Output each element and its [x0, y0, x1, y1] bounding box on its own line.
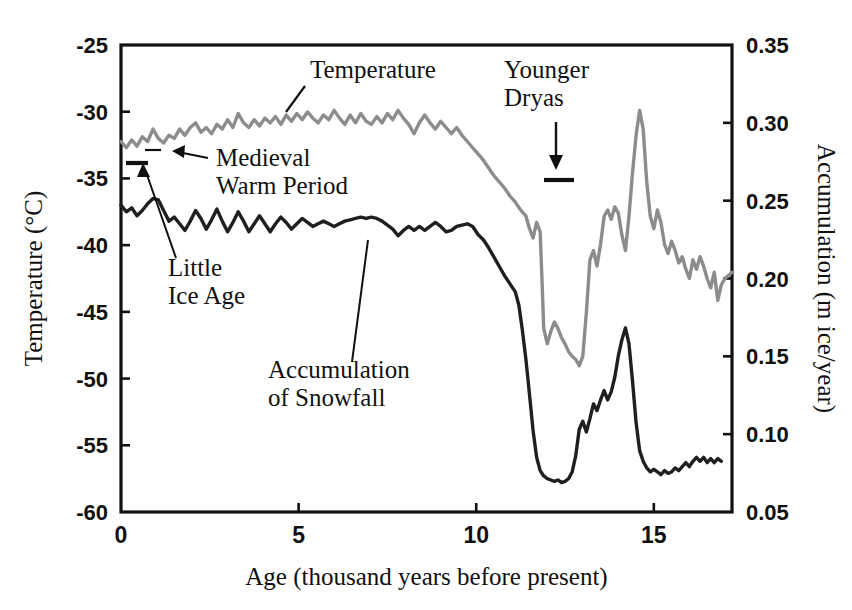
y-left-tick-label: -55 — [76, 433, 108, 458]
y-right-tick-label: 0.20 — [746, 267, 789, 292]
little-ice-age-label: Little — [168, 254, 222, 281]
y-right-tick-label: 0.05 — [746, 500, 789, 525]
y-right-tick-label: 0.30 — [746, 111, 789, 136]
x-tick-label: 10 — [463, 522, 489, 548]
y-right-tick-label: 0.35 — [746, 33, 789, 58]
medieval-warm-period-label: Medieval — [216, 144, 310, 171]
temperature-curve — [121, 110, 732, 365]
y-left-tick-label: -40 — [76, 233, 108, 258]
y-left-tick-label: -60 — [76, 500, 108, 525]
y-right-tick-label: 0.10 — [746, 422, 789, 447]
y-left-tick-label: -50 — [76, 367, 108, 392]
y-left-tick-label: -25 — [76, 33, 108, 58]
x-tick-label: 5 — [292, 522, 305, 548]
y-left-tick-label: -45 — [76, 300, 108, 325]
younger-dryas-arrow-head — [549, 155, 563, 170]
y-right-axis-title: Accumulation (m ice/year) — [812, 144, 840, 413]
temperature-annotation-label: Temperature — [310, 56, 436, 83]
younger-dryas-label: Younger — [504, 56, 590, 83]
accumulation-annotation-label: Accumulation — [268, 356, 410, 383]
accumulation-annotation-label-2: of Snowfall — [268, 384, 385, 411]
y-right-tick-label: 0.25 — [746, 189, 789, 214]
ice-core-chart: 051015-25-30-35-40-45-50-55-600.350.300.… — [0, 0, 852, 610]
chart-figure: 051015-25-30-35-40-45-50-55-600.350.300.… — [0, 0, 852, 610]
y-right-tick-label: 0.15 — [746, 344, 789, 369]
medieval-arrow-head — [172, 145, 185, 158]
x-axis-title: Age (thousand years before present) — [245, 563, 607, 591]
accumulation-leader-line — [352, 240, 368, 362]
little-ice-age-arrow-head — [137, 163, 150, 177]
x-tick-label: 15 — [641, 522, 667, 548]
y-left-axis-title: Temperature (°C) — [20, 191, 48, 367]
y-left-tick-label: -35 — [76, 166, 108, 191]
younger-dryas-label-2: Dryas — [504, 84, 564, 111]
y-left-tick-label: -30 — [76, 100, 108, 125]
x-tick-label: 0 — [115, 522, 128, 548]
medieval-warm-period-label-2: Warm Period — [216, 172, 348, 199]
little-ice-age-label-2: Ice Age — [168, 282, 245, 309]
accumulation-curve — [121, 198, 721, 482]
temperature-leader-line — [286, 86, 305, 112]
little-ice-age-arrow-shaft — [146, 172, 176, 258]
